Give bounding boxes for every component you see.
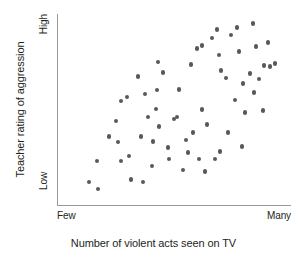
data-point (107, 134, 112, 139)
data-point (268, 64, 273, 69)
data-point (251, 21, 256, 26)
data-point (155, 88, 160, 93)
data-point (229, 33, 234, 38)
data-point (95, 159, 100, 164)
data-point (114, 119, 119, 124)
data-point (175, 115, 180, 120)
data-point (161, 70, 166, 75)
data-point (197, 157, 202, 162)
data-point (166, 145, 171, 150)
y-axis-title: Teacher rating of aggression (12, 14, 28, 205)
data-point (219, 68, 224, 73)
data-point (143, 92, 148, 97)
data-point (184, 138, 189, 143)
data-point (186, 150, 191, 155)
data-point (125, 95, 130, 100)
data-point (139, 134, 144, 139)
x-axis-title: Number of violent acts seen on TV (0, 236, 307, 250)
data-point (224, 76, 229, 81)
data-point (262, 63, 267, 68)
data-point (237, 49, 242, 54)
data-point (252, 90, 257, 95)
y-axis-high-label: High (38, 14, 50, 48)
data-point (218, 149, 223, 154)
data-point (200, 43, 205, 48)
plot-area (57, 14, 291, 205)
data-point (235, 25, 240, 30)
data-point (273, 61, 278, 66)
data-point (233, 98, 238, 103)
data-point (213, 157, 218, 162)
data-point (146, 115, 151, 120)
data-point (257, 77, 262, 82)
data-point (217, 53, 222, 58)
data-point (127, 154, 132, 159)
data-point (151, 139, 156, 144)
data-point (200, 107, 205, 112)
data-point (241, 81, 246, 86)
data-point (189, 62, 194, 67)
data-point (177, 87, 182, 92)
data-point (191, 130, 196, 135)
data-point (195, 46, 200, 51)
data-point (154, 107, 159, 112)
x-axis-line (57, 205, 291, 206)
data-point (96, 187, 101, 192)
data-point (156, 60, 161, 65)
data-point (129, 177, 134, 182)
scatter-plot-figure: Teacher rating of aggression High Low Fe… (0, 0, 307, 263)
data-point (243, 110, 248, 115)
data-point (248, 71, 253, 76)
x-axis-few-label: Few (57, 209, 76, 222)
x-axis-many-label: Many (267, 209, 291, 222)
data-point (226, 130, 231, 135)
data-point (116, 140, 121, 145)
data-point (215, 27, 220, 32)
data-point (181, 168, 186, 173)
data-point (210, 36, 215, 41)
data-point (157, 124, 162, 129)
data-point (119, 99, 124, 104)
data-point (266, 40, 271, 45)
y-axis-low-label: Low (38, 172, 50, 205)
data-point (119, 159, 124, 164)
data-point (240, 144, 245, 149)
data-point (136, 74, 141, 79)
data-point (205, 122, 210, 127)
data-point (254, 44, 259, 49)
data-point (167, 157, 172, 162)
data-point (141, 180, 146, 185)
data-point (203, 169, 208, 174)
data-point (87, 180, 92, 185)
data-point (261, 108, 266, 113)
data-point (150, 164, 155, 169)
